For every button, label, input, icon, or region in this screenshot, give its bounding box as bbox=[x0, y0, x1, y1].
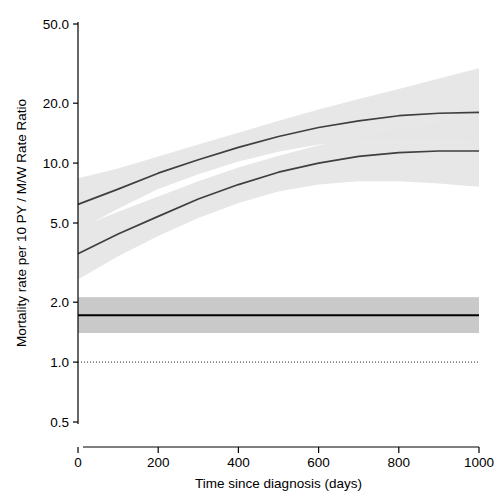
x-tick-label: 800 bbox=[388, 455, 411, 470]
rate-ratio-band-group bbox=[78, 297, 479, 333]
y-tick-label: 50.0 bbox=[43, 17, 69, 32]
x-tick-label: 0 bbox=[74, 455, 82, 470]
y-axis-title: Mortality rate per 10 PY / M/W Rate Rati… bbox=[14, 99, 29, 347]
chart-canvas: 0.51.02.05.010.020.050.00200400600800100… bbox=[0, 0, 502, 500]
y-tick-label: 1.0 bbox=[50, 355, 69, 370]
figure-container: 0.51.02.05.010.020.050.00200400600800100… bbox=[0, 0, 502, 500]
confidence-bands-group bbox=[78, 68, 479, 279]
x-axis-title: Time since diagnosis (days) bbox=[195, 476, 362, 491]
y-tick-label: 20.0 bbox=[43, 96, 69, 111]
x-tick-label: 400 bbox=[227, 455, 250, 470]
x-tick-label: 200 bbox=[147, 455, 170, 470]
x-tick-label: 1000 bbox=[464, 455, 494, 470]
x-tick-label: 600 bbox=[307, 455, 330, 470]
y-tick-label: 5.0 bbox=[50, 216, 69, 231]
y-tick-label: 0.5 bbox=[50, 415, 69, 430]
y-tick-label: 10.0 bbox=[43, 156, 69, 171]
y-tick-label: 2.0 bbox=[50, 295, 69, 310]
